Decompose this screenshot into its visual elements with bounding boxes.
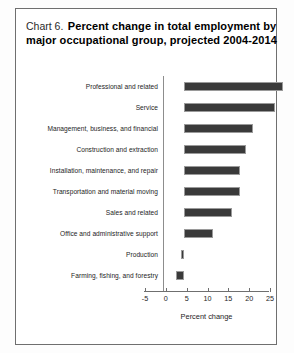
bar — [184, 229, 213, 238]
bar-track — [163, 202, 288, 223]
bar — [176, 271, 184, 280]
bar-track — [163, 223, 288, 244]
tick-mark — [249, 288, 250, 292]
bar — [184, 82, 283, 91]
bar-row: Sales and related — [18, 202, 270, 223]
category-label: Professional and related — [18, 76, 158, 97]
tick-mark — [208, 288, 209, 292]
bar-row: Professional and related — [18, 76, 270, 97]
bar-track — [163, 160, 288, 181]
bar-track — [163, 97, 288, 118]
tick-mark — [187, 288, 188, 292]
bar-row: Service — [18, 97, 270, 118]
bar — [184, 103, 276, 112]
category-label: Office and administrative support — [18, 223, 158, 244]
bar-row: Construction and extraction — [18, 139, 270, 160]
bar — [184, 145, 247, 154]
bar — [184, 208, 232, 217]
x-axis-line — [144, 291, 269, 292]
category-label: Production — [18, 244, 158, 265]
tick-mark — [166, 288, 167, 292]
plot-area: Professional and relatedServiceManagemen… — [0, 0, 294, 353]
category-label: Service — [18, 97, 158, 118]
bar-track — [163, 265, 288, 286]
tick-label: 25 — [258, 294, 282, 303]
bar-row: Production — [18, 244, 270, 265]
bar-row: Installation, maintenance, and repair — [18, 160, 270, 181]
bar-track — [163, 118, 288, 139]
chart-page: Chart 6. Percent change in total employm… — [0, 0, 294, 353]
bar — [184, 166, 240, 175]
category-label: Transportation and material moving — [18, 181, 158, 202]
category-label: Installation, maintenance, and repair — [18, 160, 158, 181]
bar-track — [163, 139, 288, 160]
tick-mark — [228, 288, 229, 292]
bar-row: Office and administrative support — [18, 223, 270, 244]
category-label: Management, business, and financial — [18, 118, 158, 139]
bar — [184, 124, 253, 133]
bar-row: Transportation and material moving — [18, 181, 270, 202]
bar-track — [163, 76, 288, 97]
bar — [181, 250, 184, 259]
category-label: Sales and related — [18, 202, 158, 223]
bar-row: Management, business, and financial — [18, 118, 270, 139]
category-label: Construction and extraction — [18, 139, 158, 160]
category-label: Farming, fishing, and forestry — [18, 265, 158, 286]
tick-mark — [145, 288, 146, 292]
bar — [184, 187, 240, 196]
x-axis-title: Percent change — [144, 312, 269, 321]
bar-row: Farming, fishing, and forestry — [18, 265, 270, 286]
bar-track — [163, 181, 288, 202]
tick-mark — [270, 288, 271, 292]
bar-track — [163, 244, 288, 265]
